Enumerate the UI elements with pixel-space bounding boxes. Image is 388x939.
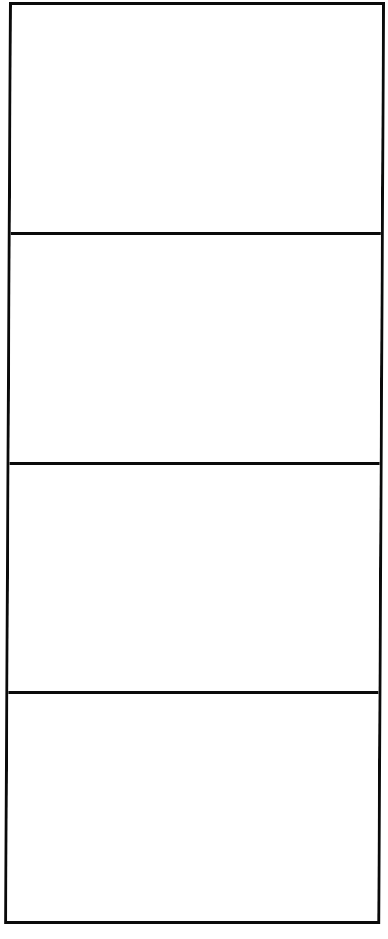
storyboard-frame: [4, 2, 385, 924]
panel-1: [11, 5, 382, 232]
panel-2: [10, 232, 381, 462]
panel-4: [7, 691, 378, 921]
panel-3: [8, 462, 379, 692]
